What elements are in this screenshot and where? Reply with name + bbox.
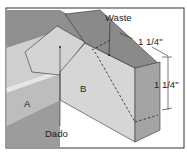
label-part-b: B <box>80 83 86 94</box>
dado-joint-diagram: Waste 1 1/4" 1 1/4" B A Dado <box>0 0 187 156</box>
label-waste: Waste <box>105 12 132 23</box>
board-b-end-face <box>135 62 160 142</box>
label-dim-height: 1 1/4" <box>154 79 179 90</box>
label-dim-width: 1 1/4" <box>138 36 163 47</box>
diagram-frame: Waste 1 1/4" 1 1/4" B A Dado <box>0 0 187 156</box>
label-part-a: A <box>24 98 31 109</box>
waste-leader-dot <box>108 54 110 56</box>
label-dado: Dado <box>45 128 68 139</box>
dado-leader-dot <box>59 46 61 48</box>
